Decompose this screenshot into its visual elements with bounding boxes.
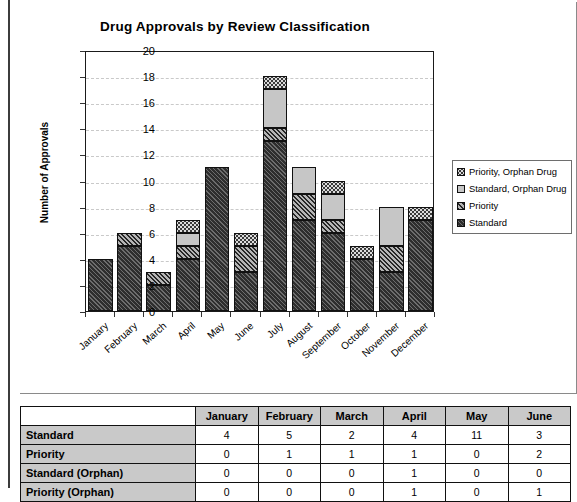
y-tick-mark <box>80 182 85 183</box>
bar-group[interactable] <box>379 50 403 311</box>
legend-label: Standard <box>469 217 507 228</box>
bar-segment[interactable] <box>176 233 200 246</box>
legend-label: Priority, Orphan Drug <box>469 166 557 177</box>
y-tick-label: 16 <box>115 98 155 109</box>
bar-segment[interactable] <box>88 259 112 311</box>
bar-segment[interactable] <box>263 89 287 128</box>
y-tick-mark <box>80 260 85 261</box>
bar-segment[interactable] <box>321 233 345 311</box>
chart-title: Drug Approvals by Review Classification <box>20 19 450 34</box>
bar-segment[interactable] <box>350 246 374 259</box>
y-axis-title: Number of Approvals <box>39 113 50 233</box>
bar-segment[interactable] <box>379 272 403 311</box>
bar-segment[interactable] <box>205 167 229 311</box>
bar-segment[interactable] <box>350 259 374 311</box>
table-cell: 0 <box>258 464 321 483</box>
bar-group[interactable] <box>263 50 287 311</box>
bar-group[interactable] <box>176 50 200 311</box>
bar-segment[interactable] <box>234 272 258 311</box>
table-corner-cell <box>21 407 196 426</box>
y-tick-mark <box>80 286 85 287</box>
y-tick-label: 12 <box>115 150 155 161</box>
bar-segment[interactable] <box>292 167 316 193</box>
table-cell: 3 <box>508 426 571 445</box>
x-tick-label: June <box>232 320 255 343</box>
y-tick-mark <box>80 234 85 235</box>
legend-item[interactable]: Priority <box>457 200 566 211</box>
legend-item[interactable]: Standard, Orphan Drug <box>457 183 566 194</box>
y-tick-label: 10 <box>115 176 155 187</box>
legend-item[interactable]: Priority, Orphan Drug <box>457 166 566 177</box>
legend-label: Priority <box>469 200 498 211</box>
bar-segment[interactable] <box>176 259 200 311</box>
table-column-header: March <box>321 407 384 426</box>
bar-segment[interactable] <box>408 220 432 311</box>
chart-legend: Priority, Orphan DrugStandard, Orphan Dr… <box>452 160 572 234</box>
bar-segment[interactable] <box>321 220 345 233</box>
bar-group[interactable] <box>321 50 345 311</box>
legend-item[interactable]: Standard <box>457 217 566 228</box>
table-row-header: Standard (Orphan) <box>21 464 196 483</box>
x-tick-mark <box>376 312 377 317</box>
table-cell: 1 <box>383 464 446 483</box>
y-tick-mark <box>80 103 85 104</box>
table-column-header: April <box>383 407 446 426</box>
table-cell: 0 <box>446 483 509 502</box>
bar-group[interactable] <box>205 50 229 311</box>
table-cell: 2 <box>508 445 571 464</box>
legend-swatch-icon <box>457 168 465 176</box>
x-tick-mark <box>85 312 86 317</box>
table-row: Standard4524113 <box>21 426 571 445</box>
table-column-header: May <box>446 407 509 426</box>
table-cell: 4 <box>383 426 446 445</box>
x-tick-label: May <box>205 320 226 341</box>
x-tick-mark <box>143 312 144 317</box>
table-cell: 4 <box>196 426 259 445</box>
bar-segment[interactable] <box>379 246 403 272</box>
x-tick-mark <box>434 312 435 317</box>
x-tick-mark <box>405 312 406 317</box>
bar-segment[interactable] <box>263 76 287 89</box>
bar-segment[interactable] <box>292 194 316 220</box>
bar-segment[interactable] <box>176 220 200 233</box>
bar-group[interactable] <box>408 50 432 311</box>
x-tick-mark <box>347 312 348 317</box>
data-table: JanuaryFebruaryMarchAprilMayJune Standar… <box>20 406 571 502</box>
bar-segment[interactable] <box>263 141 287 311</box>
y-tick-mark <box>80 208 85 209</box>
bar-segment[interactable] <box>292 220 316 311</box>
y-tick-mark <box>80 155 85 156</box>
bar-segment[interactable] <box>321 194 345 220</box>
bar-group[interactable] <box>234 50 258 311</box>
bar-group[interactable] <box>88 50 112 311</box>
table-column-header: June <box>508 407 571 426</box>
bar-segment[interactable] <box>408 207 432 220</box>
bar-group[interactable] <box>350 50 374 311</box>
bar-segment[interactable] <box>234 233 258 246</box>
y-tick-label: 6 <box>115 228 155 239</box>
table-cell: 0 <box>508 464 571 483</box>
bar-segment[interactable] <box>176 246 200 259</box>
y-tick-mark <box>80 51 85 52</box>
table-column-header: January <box>196 407 259 426</box>
bar-segment[interactable] <box>321 181 345 194</box>
bar-group[interactable] <box>292 50 316 311</box>
x-tick-label: July <box>264 320 285 340</box>
table-row-header: Priority <box>21 445 196 464</box>
bar-segment[interactable] <box>234 246 258 272</box>
y-tick-mark <box>80 129 85 130</box>
document-page-frame: Drug Approvals by Review Classification … <box>8 0 569 488</box>
x-tick-mark <box>172 312 173 317</box>
table-cell: 1 <box>383 483 446 502</box>
table-cell: 0 <box>196 464 259 483</box>
x-tick-mark <box>201 312 202 317</box>
bar-segment[interactable] <box>263 128 287 141</box>
table-cell: 0 <box>196 483 259 502</box>
x-tick-mark <box>260 312 261 317</box>
x-tick-label: April <box>175 320 197 342</box>
table-row-header: Standard <box>21 426 196 445</box>
x-tick-mark <box>289 312 290 317</box>
bar-segment[interactable] <box>379 207 403 246</box>
table-cell: 2 <box>321 426 384 445</box>
y-tick-label: 2 <box>115 280 155 291</box>
